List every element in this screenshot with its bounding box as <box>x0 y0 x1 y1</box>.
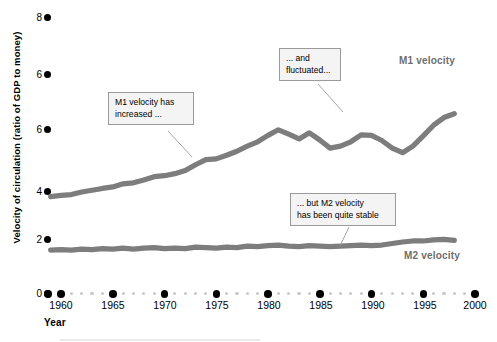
x-tick-label: 1975 <box>197 299 237 311</box>
x-tick-dot <box>368 290 376 298</box>
x-tick-dot <box>161 290 169 298</box>
x-tick-dot <box>420 290 428 298</box>
x-minor-dot <box>442 292 445 295</box>
y-tick-label: 8 <box>24 12 42 23</box>
y-axis-title: Velocity of circulation (ratio of GDP to… <box>11 18 22 258</box>
x-tick-dot <box>471 290 479 298</box>
callout-leader-m1-fluctuated <box>318 84 343 112</box>
x-minor-dot <box>380 292 383 295</box>
series-label-m2: M2 velocity <box>404 250 460 261</box>
x-minor-dot <box>349 292 352 295</box>
x-minor-dot <box>90 292 93 295</box>
x-minor-dot <box>80 292 83 295</box>
x-tick-dot <box>264 290 272 298</box>
x-minor-dot <box>432 292 435 295</box>
x-axis-title: Year <box>44 317 66 328</box>
callout-leader-m1-increased <box>168 131 192 157</box>
x-tick-label: 1980 <box>249 299 289 311</box>
x-minor-dot <box>184 292 187 295</box>
x-minor-dot <box>246 292 249 295</box>
callout-m1-increased: M1 velocity has increased ... <box>108 92 194 125</box>
x-minor-dot <box>256 292 259 295</box>
x-minor-dot <box>70 292 73 295</box>
x-tick-label: 1995 <box>405 299 445 311</box>
x-tick-label: 1985 <box>301 299 341 311</box>
series-label-m1: M1 velocity <box>399 55 455 66</box>
x-minor-dot <box>101 292 104 295</box>
callout-m1-fluctuated: ... and fluctuated... <box>279 48 341 81</box>
y-tick-dot <box>44 71 51 78</box>
x-tick-label: 1965 <box>93 299 133 311</box>
x-minor-dot <box>401 292 404 295</box>
x-minor-dot <box>153 292 156 295</box>
x-minor-dot <box>453 292 456 295</box>
series-line-m1 <box>51 114 455 197</box>
velocity-chart: Velocity of circulation (ratio of GDP to… <box>0 0 497 342</box>
x-tick-dot <box>109 290 117 298</box>
x-minor-dot <box>391 292 394 295</box>
x-minor-dot <box>308 292 311 295</box>
y-tick-label: 4 <box>24 186 42 197</box>
y-tick-dot <box>44 126 51 133</box>
x-minor-dot <box>173 292 176 295</box>
bottom-rule <box>60 339 260 341</box>
x-minor-dot <box>329 292 332 295</box>
x-tick-label: 2000 <box>455 299 495 311</box>
x-minor-dot <box>360 292 363 295</box>
x-minor-dot <box>287 292 290 295</box>
y-tick-label: 6 <box>24 124 42 135</box>
x-minor-dot <box>142 292 145 295</box>
x-tick-dot <box>57 290 65 298</box>
x-tick-label: 1990 <box>353 299 393 311</box>
x-minor-dot <box>411 292 414 295</box>
y-tick-label: 2 <box>24 234 42 245</box>
y-tick-dot <box>44 188 51 195</box>
x-minor-dot <box>277 292 280 295</box>
x-minor-dot <box>339 292 342 295</box>
y-tick-label: 0 <box>24 288 42 299</box>
x-origin-dot <box>44 290 52 298</box>
callout-leader-m2-stable <box>340 227 349 246</box>
y-tick-dot <box>44 236 51 243</box>
x-minor-dot <box>235 292 238 295</box>
x-minor-dot <box>463 292 466 295</box>
y-tick-dot <box>44 14 51 21</box>
x-minor-dot <box>204 292 207 295</box>
x-minor-dot <box>194 292 197 295</box>
callout-m2-stable: ... but M2 velocity has been quite stabl… <box>290 193 396 226</box>
series-line-m2 <box>51 239 455 250</box>
y-tick-label: 6 <box>24 69 42 80</box>
x-tick-dot <box>213 290 221 298</box>
x-tick-dot <box>316 290 324 298</box>
x-minor-dot <box>122 292 125 295</box>
x-minor-dot <box>225 292 228 295</box>
x-minor-dot <box>297 292 300 295</box>
x-tick-label: 1960 <box>41 299 81 311</box>
x-minor-dot <box>132 292 135 295</box>
x-tick-label: 1970 <box>145 299 185 311</box>
